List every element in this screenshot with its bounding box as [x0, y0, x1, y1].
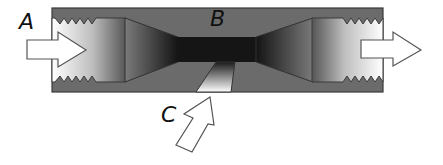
label-b: B [210, 8, 225, 30]
label-c: C [161, 104, 176, 126]
label-a: A [19, 11, 34, 33]
constriction-throat [177, 37, 257, 62]
suction-arrow-icon [176, 97, 214, 152]
